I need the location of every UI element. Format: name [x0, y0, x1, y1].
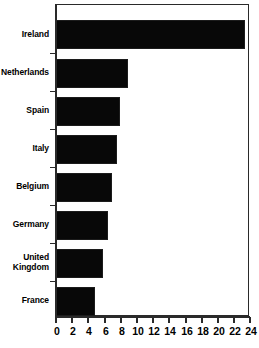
x-axis-tick	[136, 317, 138, 323]
bar-france	[55, 287, 95, 316]
bar-germany	[55, 211, 108, 240]
x-axis-tick	[71, 317, 73, 323]
y-axis-label-spain: Spain	[0, 106, 49, 116]
y-axis-label-ireland: Ireland	[0, 30, 49, 40]
x-axis-tick	[201, 317, 203, 323]
x-axis-tick	[249, 317, 251, 323]
y-axis-line	[55, 4, 57, 317]
bar-italy	[55, 135, 117, 164]
x-axis-tick	[87, 317, 89, 323]
x-axis-tick	[120, 317, 122, 323]
bar-spain	[55, 97, 120, 126]
x-axis-tick	[104, 317, 106, 323]
x-axis-tick	[217, 317, 219, 323]
x-axis-tick	[152, 317, 154, 323]
x-axis-tick	[55, 317, 57, 323]
x-axis-tick	[185, 317, 187, 323]
x-axis-tick	[168, 317, 170, 323]
y-axis-label-belgium: Belgium	[0, 182, 49, 192]
bar-ireland	[55, 20, 245, 49]
x-axis-tick-label: 24	[240, 325, 259, 337]
bar-belgium	[55, 173, 112, 202]
bar-netherlands	[55, 59, 128, 88]
y-axis-label-france: France	[0, 296, 49, 306]
y-axis-label-germany: Germany	[0, 220, 49, 230]
y-axis-category-labels: Ireland Netherlands Spain Italy Belgium …	[0, 4, 52, 316]
bar-united-kingdom	[55, 249, 103, 278]
y-axis-label-italy: Italy	[0, 144, 49, 154]
x-axis-tick	[233, 317, 235, 323]
bars-layer	[55, 4, 249, 316]
y-axis-label-netherlands: Netherlands	[0, 68, 49, 78]
bar-chart: Ireland Netherlands Spain Italy Belgium …	[0, 0, 259, 348]
y-axis-label-united-kingdom-line2: Kingdom	[0, 263, 49, 273]
